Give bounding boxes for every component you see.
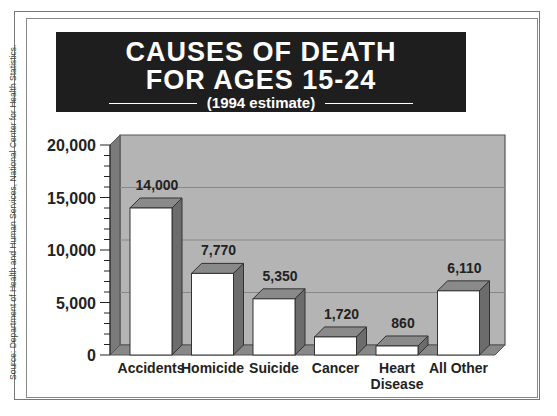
value-label: 7,770 bbox=[201, 242, 236, 258]
bar-chart: 05,00010,00015,00020,00014,000Accidents7… bbox=[0, 0, 557, 416]
side-wall bbox=[110, 135, 120, 355]
y-tick-label: 0 bbox=[87, 347, 96, 364]
bar-side bbox=[480, 281, 490, 355]
bar bbox=[192, 273, 234, 355]
bar-side bbox=[295, 289, 305, 355]
bar bbox=[315, 337, 357, 355]
value-label: 1,720 bbox=[324, 306, 359, 322]
y-tick-label: 5,000 bbox=[56, 295, 96, 312]
category-label: All Other bbox=[429, 360, 489, 376]
y-tick-label: 10,000 bbox=[47, 242, 96, 259]
bar bbox=[376, 346, 418, 355]
y-tick-label: 20,000 bbox=[47, 137, 96, 154]
bar bbox=[438, 291, 480, 355]
value-label: 14,000 bbox=[136, 177, 179, 193]
category-label: Disease bbox=[371, 376, 424, 392]
value-label: 5,350 bbox=[262, 268, 297, 284]
bar bbox=[253, 299, 295, 355]
bar-side bbox=[172, 198, 182, 355]
category-label: Cancer bbox=[312, 360, 360, 376]
bar-side bbox=[234, 263, 244, 355]
category-label: Suicide bbox=[249, 360, 299, 376]
value-label: 860 bbox=[391, 315, 415, 331]
value-label: 6,110 bbox=[447, 260, 481, 276]
category-label: Accidents bbox=[118, 360, 185, 376]
bar bbox=[130, 208, 172, 355]
y-tick-label: 15,000 bbox=[47, 190, 96, 207]
category-label: Heart bbox=[379, 360, 415, 376]
category-label: Homicide bbox=[181, 360, 244, 376]
